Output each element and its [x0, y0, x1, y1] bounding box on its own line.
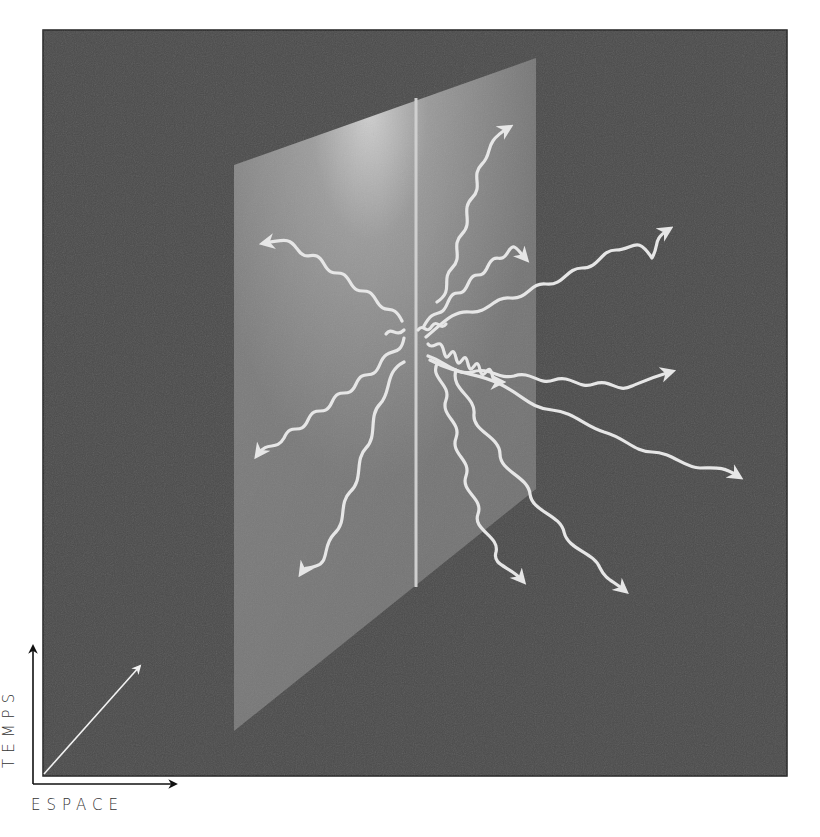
axis-label-space: ESPACE — [31, 796, 124, 814]
axis-label-time: TEMPS — [0, 688, 18, 768]
wave-center-b — [386, 330, 404, 334]
diagram-canvas — [0, 0, 820, 837]
diagram: ESPACE TEMPS — [0, 0, 820, 837]
